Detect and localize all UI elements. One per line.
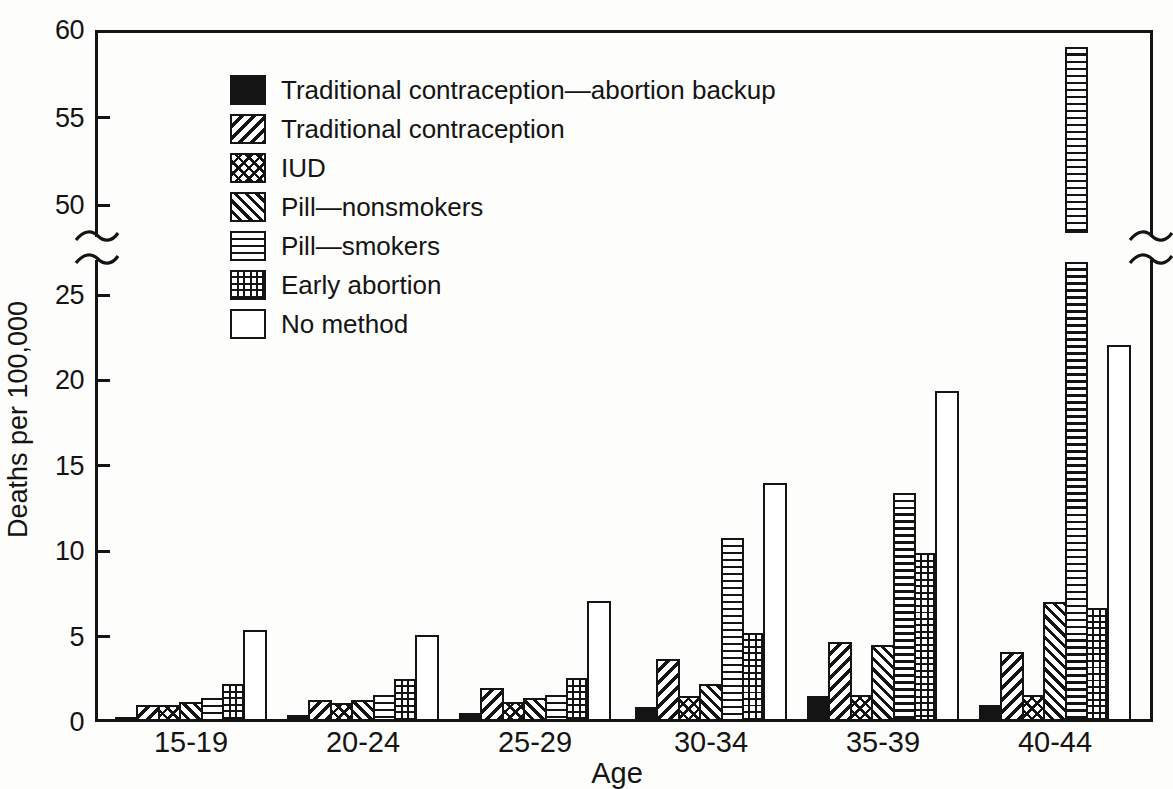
bar-traditional-30-34 — [656, 659, 680, 722]
x-axis-tick-label-40-44: 40-44 — [975, 726, 1135, 759]
bar-pill-smokers-40-44-broken — [1065, 47, 1089, 722]
legend-swatch-solid-black-icon — [230, 75, 266, 105]
bar-early-abortion-40-44 — [1086, 608, 1110, 722]
y-axis-tick-label-50: 50 — [16, 190, 84, 220]
legend-swatch-horizontal-lines-icon — [230, 231, 266, 261]
legend-row-no-method: No method — [230, 309, 776, 339]
x-axis-tick-label-30-34: 30-34 — [631, 726, 791, 759]
legend-label-early-abortion: Early abortion — [281, 270, 441, 301]
axis-break-tilde-icon — [74, 228, 120, 244]
y-axis-tick-55 — [95, 116, 110, 119]
y-axis-tick-label-5: 5 — [16, 622, 84, 652]
x-axis-tick-label-15-19: 15-19 — [111, 726, 271, 759]
x-axis-baseline — [95, 719, 1153, 722]
bar-no-method-30-34 — [763, 483, 787, 722]
y-axis-tick-label-0: 0 — [16, 707, 84, 737]
legend-row-trad-abortion-backup: Traditional contraception—abortion backu… — [230, 75, 776, 105]
bar-no-method-25-29 — [587, 601, 611, 722]
bar-upper-segment — [1065, 47, 1089, 233]
y-axis-tick-20 — [95, 379, 110, 382]
legend-label-no-method: No method — [281, 309, 408, 340]
bar-early-abortion-30-34 — [742, 633, 766, 722]
y-axis-tick-label-15: 15 — [16, 451, 84, 481]
bar-no-method-40-44 — [1107, 345, 1131, 722]
bar-iud-40-44 — [1022, 695, 1046, 722]
legend-row-traditional: Traditional contraception — [230, 114, 776, 144]
plot-area: Traditional contraception—abortion backu… — [95, 30, 1153, 722]
bar-no-method-20-24 — [415, 635, 439, 722]
y-axis-tick-label-20: 20 — [16, 365, 84, 395]
y-axis-tick-25 — [95, 294, 110, 297]
bar-iud-35-39 — [850, 695, 874, 722]
right-border-lower-segment — [1150, 260, 1153, 722]
legend-swatch-grid-crosshatch-icon — [230, 270, 266, 300]
bar-no-method-15-19 — [243, 630, 267, 722]
legend-label-iud: IUD — [281, 153, 326, 184]
bar-group-40-44 — [979, 30, 1131, 722]
bar-traditional-25-29 — [480, 688, 504, 722]
y-axis-tick-label-55: 55 — [16, 103, 84, 133]
legend-row-early-abortion: Early abortion — [230, 270, 776, 300]
y-axis-tick-label-10: 10 — [16, 536, 84, 566]
legend-row-pill-nonsmokers: Pill—nonsmokers — [230, 192, 776, 222]
x-axis-tick-label-25-29: 25-29 — [455, 726, 615, 759]
bar-traditional-35-39 — [828, 642, 852, 722]
bar-early-abortion-20-24 — [394, 679, 418, 722]
x-axis-tick-label-20-24: 20-24 — [283, 726, 443, 759]
right-border-upper-segment — [1150, 30, 1153, 237]
axis-break-tilde-icon — [1128, 228, 1173, 244]
legend-row-pill-smokers: Pill—smokers — [230, 231, 776, 261]
axis-break-tilde-icon — [74, 251, 120, 267]
y-axis-tick-5 — [95, 635, 110, 638]
bar-pill-smokers-30-34 — [721, 538, 745, 722]
y-axis-tick-10 — [95, 550, 110, 553]
bar-pill-nonsmokers-30-34 — [699, 684, 723, 722]
y-axis-lower-segment — [95, 260, 98, 722]
legend: Traditional contraception—abortion backu… — [230, 75, 776, 348]
legend-label-traditional: Traditional contraception — [281, 114, 565, 145]
bar-pill-nonsmokers-35-39 — [871, 645, 895, 722]
bar-early-abortion-35-39 — [914, 553, 938, 722]
x-axis-tick-label-35-39: 35-39 — [803, 726, 963, 759]
bar-traditional-40-44 — [1000, 652, 1024, 722]
legend-swatch-diagonal-hatch-forward-icon — [230, 114, 266, 144]
x-axis-title: Age — [537, 757, 697, 789]
bar-pill-smokers-25-29 — [545, 695, 569, 722]
y-axis-tick-15 — [95, 464, 110, 467]
legend-label-trad-abortion-backup: Traditional contraception—abortion backu… — [281, 75, 776, 106]
legend-row-iud: IUD — [230, 153, 776, 183]
axis-break-tilde-icon — [1128, 251, 1173, 267]
legend-label-pill-smokers: Pill—smokers — [281, 231, 440, 262]
bar-pill-smokers-35-39 — [893, 493, 917, 722]
legend-swatch-diagonal-hatch-backward-icon — [230, 192, 266, 222]
y-axis-tick-label-25: 25 — [16, 280, 84, 310]
bar-pill-smokers-20-24 — [373, 695, 397, 722]
legend-swatch-open-white-icon — [230, 309, 266, 339]
bar-pill-nonsmokers-40-44 — [1043, 602, 1067, 722]
legend-label-pill-nonsmokers: Pill—nonsmokers — [281, 192, 483, 223]
figure: Traditional contraception—abortion backu… — [0, 0, 1173, 789]
y-axis-tick-label-60: 60 — [16, 15, 84, 45]
bar-early-abortion-15-19 — [222, 684, 246, 722]
bar-group-35-39 — [807, 30, 959, 722]
bar-no-method-35-39 — [935, 391, 959, 722]
y-axis-tick-50 — [95, 204, 110, 207]
bar-lower-segment — [1065, 262, 1089, 722]
legend-swatch-diamond-crosshatch-icon — [230, 153, 266, 183]
bar-early-abortion-25-29 — [566, 678, 590, 722]
